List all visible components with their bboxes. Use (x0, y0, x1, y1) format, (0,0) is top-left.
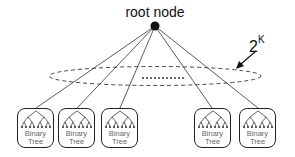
tree-label-line2: Tree (59, 138, 94, 146)
tree-label-line2: Tree (18, 138, 53, 146)
binary-tree-icon (60, 110, 93, 130)
tree-label-line2: Tree (195, 138, 230, 146)
root-edges (36, 26, 258, 108)
root-node-label: root node (0, 4, 295, 20)
binary-tree-icon (196, 110, 229, 130)
binary-tree-box-2: Binary Tree (58, 108, 95, 148)
diagram-root-to-binary-trees: root node 2K Binary Tree Binary Tree (0, 0, 295, 157)
count-exponent: K (258, 34, 265, 45)
count-label: 2K (249, 37, 265, 56)
binary-tree-box-4: Binary Tree (194, 108, 231, 148)
ellipsis-dots (142, 77, 184, 79)
binary-tree-box-3: Binary Tree (101, 108, 138, 148)
dashed-ellipse (49, 67, 261, 86)
tree-label-line2: Tree (102, 138, 137, 146)
count-base: 2 (249, 38, 258, 55)
root-node-dot (151, 22, 160, 31)
binary-tree-icon (103, 110, 136, 130)
binary-tree-icon (241, 110, 274, 130)
tree-label-line2: Tree (240, 138, 275, 146)
binary-tree-icon (19, 110, 52, 130)
binary-tree-box-5: Binary Tree (239, 108, 276, 148)
binary-tree-box-1: Binary Tree (17, 108, 54, 148)
